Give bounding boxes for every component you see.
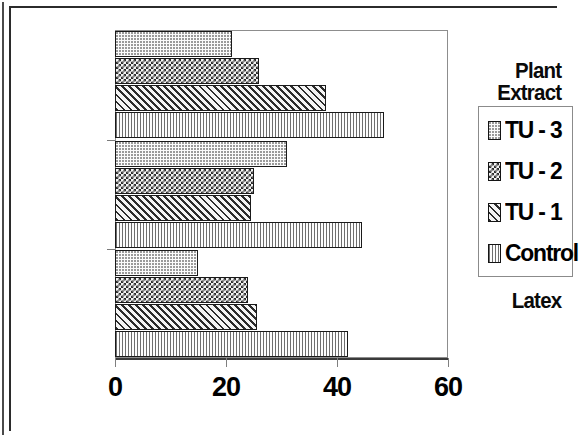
page-edge-line	[2, 2, 4, 435]
bar-tu-2-l-supl	[115, 168, 254, 194]
tu3-swatch-icon	[488, 121, 501, 140]
chart-legend: TU - 3TU - 2TU - 1Control	[478, 106, 573, 277]
control-swatch-icon	[488, 244, 501, 263]
category-label-latex: Latex	[467, 290, 567, 312]
legend-label: TU - 1	[505, 198, 561, 226]
x-tick	[448, 358, 449, 367]
bar-tu-3-plant-extract	[115, 31, 232, 57]
bar-control-l-supl	[115, 222, 362, 248]
x-tick-label: 60	[418, 372, 478, 403]
tu1-swatch-icon	[488, 203, 501, 222]
category-tick	[107, 249, 115, 250]
category-label-plant-extract: PlantExtract	[467, 60, 567, 105]
legend-entry-tu2[interactable]: TU - 2	[488, 156, 564, 186]
bar-control-plant-extract	[115, 112, 384, 138]
legend-label: TU - 2	[505, 157, 561, 185]
legend-entry-control[interactable]: Control	[488, 238, 582, 268]
legend-entry-tu3[interactable]: TU - 3	[488, 115, 564, 145]
bar-tu-1-latex	[115, 304, 257, 330]
bar-tu-2-plant-extract	[115, 58, 259, 84]
category-label-line: Plant	[467, 60, 562, 82]
x-tick-label: 20	[196, 372, 256, 403]
x-tick	[226, 358, 227, 367]
tu2-swatch-icon	[488, 162, 501, 181]
category-label-line: Latex	[467, 290, 562, 312]
bar-tu-3-latex	[115, 250, 198, 276]
legend-entry-tu1[interactable]: TU - 1	[488, 197, 564, 227]
legend-label: TU - 3	[505, 116, 561, 144]
category-label-line: Extract	[467, 82, 562, 104]
bar-tu-2-latex	[115, 277, 248, 303]
bar-tu-1-l-supl	[115, 195, 251, 221]
x-tick	[337, 358, 338, 367]
bar-control-latex	[115, 331, 348, 357]
x-axis	[115, 358, 449, 360]
x-tick-label: 40	[307, 372, 367, 403]
legend-label: Control	[505, 239, 578, 267]
category-tick	[107, 140, 115, 141]
x-tick	[115, 358, 116, 367]
bar-tu-1-plant-extract	[115, 85, 326, 111]
bar-tu-3-l-supl	[115, 141, 287, 167]
x-tick-label: 0	[85, 372, 145, 403]
